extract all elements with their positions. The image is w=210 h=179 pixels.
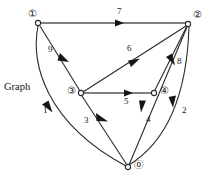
node-label-4: ④ <box>160 87 169 97</box>
edge-weight-1-0: 1 <box>43 106 48 115</box>
edge-weight-3-0: 3 <box>84 116 89 125</box>
node-marker-0[interactable] <box>125 164 130 169</box>
edge-weight-4-2: 8 <box>177 57 182 66</box>
edge-weight-3-1: 9 <box>48 45 53 54</box>
node-marker-2[interactable] <box>185 21 190 26</box>
edge-3-4 <box>84 90 152 97</box>
graph-diagram: ① ② ③ ④ ⓪ 7 9 1 6 5 3 8 4 2 Graph <box>0 0 210 179</box>
node-marker-1[interactable] <box>35 20 40 25</box>
diagram-caption: Graph <box>4 82 30 93</box>
edge-weight-3-4: 5 <box>124 97 129 106</box>
edge-1-2 <box>40 20 186 27</box>
edge-weight-1-2: 7 <box>117 7 122 16</box>
edge-3-1 <box>40 26 80 91</box>
graph-canvas <box>0 0 210 179</box>
edge-weight-3-2: 6 <box>127 44 132 53</box>
edge-3-0 <box>82 96 127 165</box>
node-label-2: ② <box>193 11 202 21</box>
edge-weight-2-0: 4 <box>146 115 151 124</box>
node-label-1: ① <box>28 10 37 20</box>
node-label-3: ③ <box>67 87 76 97</box>
node-marker-3[interactable] <box>78 90 83 95</box>
node-label-0: ⓪ <box>134 161 144 171</box>
edge-weight-0-2: 2 <box>182 106 187 115</box>
node-marker-4[interactable] <box>151 90 156 95</box>
